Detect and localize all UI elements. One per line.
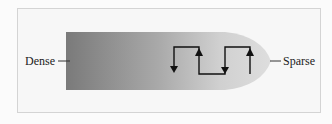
density-gradient-bar: [66, 32, 271, 90]
sparse-label: Sparse: [283, 54, 315, 68]
dense-label: Dense: [25, 54, 55, 68]
